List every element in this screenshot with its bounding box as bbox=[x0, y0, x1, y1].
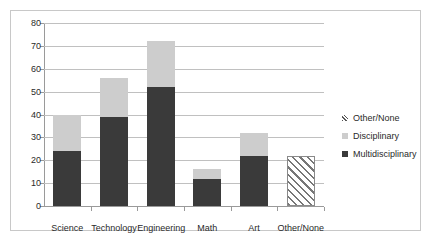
chart-legend: Other/NoneDisciplinaryMultidisciplinary bbox=[342, 109, 433, 163]
x-minor-tick bbox=[137, 207, 138, 211]
bar-segment-disciplinary[interactable] bbox=[100, 78, 128, 117]
gridline-40 bbox=[44, 115, 324, 116]
x-minor-tick bbox=[277, 207, 278, 211]
y-tick-label: 0 bbox=[15, 202, 41, 211]
legend-item[interactable]: Multidisciplinary bbox=[342, 145, 433, 163]
x-minor-tick bbox=[91, 207, 92, 211]
legend-swatch-icon bbox=[342, 133, 348, 139]
gridline-50 bbox=[44, 92, 324, 93]
gridline-60 bbox=[44, 69, 324, 70]
bar-segment-multidisciplinary[interactable] bbox=[147, 87, 175, 206]
bar-segment-multidisciplinary[interactable] bbox=[193, 179, 221, 206]
bar-segment-disciplinary[interactable] bbox=[193, 169, 221, 178]
y-tick-label: 10 bbox=[15, 179, 41, 188]
bar-segment-multidisciplinary[interactable] bbox=[100, 117, 128, 206]
chart-frame: 01020304050607080 ScienceTechnologyEngin… bbox=[10, 10, 421, 231]
x-tick-label: Math bbox=[184, 223, 231, 233]
x-tick-label: Art bbox=[231, 223, 278, 233]
legend-label: Disciplinary bbox=[353, 131, 399, 141]
bar-segment-disciplinary[interactable] bbox=[53, 115, 81, 152]
bar-segment-multidisciplinary[interactable] bbox=[240, 156, 268, 206]
bar-segment-multidisciplinary[interactable] bbox=[53, 151, 81, 206]
y-tick-label: 80 bbox=[15, 19, 41, 28]
y-tick-label: 70 bbox=[15, 42, 41, 51]
y-axis-tick-labels: 01020304050607080 bbox=[11, 23, 41, 206]
y-tick-label: 60 bbox=[15, 65, 41, 74]
bar-segment-disciplinary[interactable] bbox=[240, 133, 268, 156]
legend-swatch-icon bbox=[342, 151, 348, 157]
x-tick-label: Technology bbox=[91, 223, 138, 233]
y-tick-label: 20 bbox=[15, 156, 41, 165]
legend-label: Other/None bbox=[353, 113, 400, 123]
x-tick-label: Science bbox=[44, 223, 91, 233]
legend-item[interactable]: Other/None bbox=[342, 109, 433, 127]
x-minor-tick bbox=[324, 207, 325, 211]
x-axis-labels: ScienceTechnologyEngineeringMathArtOther… bbox=[44, 23, 324, 63]
gridline-20 bbox=[44, 160, 324, 161]
gridline-30 bbox=[44, 137, 324, 138]
y-tick-label: 50 bbox=[15, 88, 41, 97]
x-minor-tick bbox=[184, 207, 185, 211]
legend-label: Multidisciplinary bbox=[353, 149, 417, 159]
gridline-10 bbox=[44, 183, 324, 184]
legend-swatch-icon bbox=[342, 115, 348, 121]
x-minor-tick bbox=[231, 207, 232, 211]
x-tick-label: Engineering bbox=[137, 223, 184, 233]
bar-segment-other-none[interactable] bbox=[287, 156, 315, 206]
x-tick-label: Other/None bbox=[277, 223, 324, 233]
y-tick-label: 40 bbox=[15, 111, 41, 120]
y-tick-label: 30 bbox=[15, 133, 41, 142]
legend-item[interactable]: Disciplinary bbox=[342, 127, 433, 145]
